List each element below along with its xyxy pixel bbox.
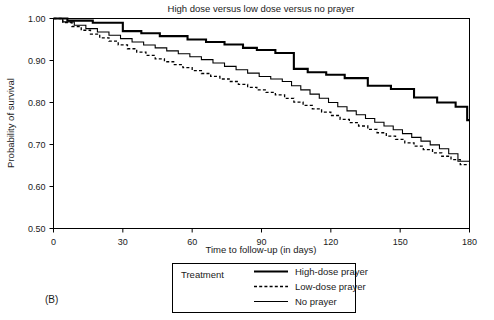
legend: Treatment High-dose prayerLow-dose praye… — [173, 264, 368, 313]
y-tick-label: 1.00 — [28, 14, 46, 24]
legend-label-low-dose-prayer: Low-dose prayer — [295, 281, 366, 292]
legend-label-high-dose-prayer: High-dose prayer — [295, 266, 368, 277]
y-tick-label: 0.50 — [28, 224, 46, 234]
chart-title: High dose versus low dose versus no pray… — [168, 3, 355, 14]
legend-entries: High-dose prayerLow-dose prayerNo prayer — [254, 266, 368, 307]
x-tick-label: 120 — [323, 237, 338, 247]
x-axis-label: Time to follow-up (in days) — [205, 244, 316, 255]
plot-area: 0306090120150180 0.500.600.700.800.901.0… — [28, 14, 477, 247]
survival-chart-figure: High dose versus low dose versus no pray… — [0, 0, 494, 320]
x-tick-label: 180 — [462, 237, 477, 247]
x-tick-label: 30 — [118, 237, 128, 247]
x-tick-label: 60 — [187, 237, 197, 247]
curve-low-dose-prayer — [54, 19, 470, 165]
panel-label: (B) — [45, 294, 58, 305]
y-tick-label: 0.70 — [28, 140, 46, 150]
legend-title: Treatment — [181, 269, 224, 280]
y-tick-label: 0.80 — [28, 98, 46, 108]
y-axis-label: Probability of survival — [5, 78, 16, 168]
x-tick-label: 150 — [393, 237, 408, 247]
survival-curves — [54, 19, 470, 165]
y-tick-label: 0.90 — [28, 56, 46, 66]
legend-label-no-prayer: No prayer — [295, 296, 337, 307]
y-tick-label: 0.60 — [28, 182, 46, 192]
x-tick-label: 0 — [51, 237, 56, 247]
y-axis-ticks: 0.500.600.700.800.901.00 — [28, 14, 54, 234]
curve-high-dose-prayer — [54, 19, 470, 121]
